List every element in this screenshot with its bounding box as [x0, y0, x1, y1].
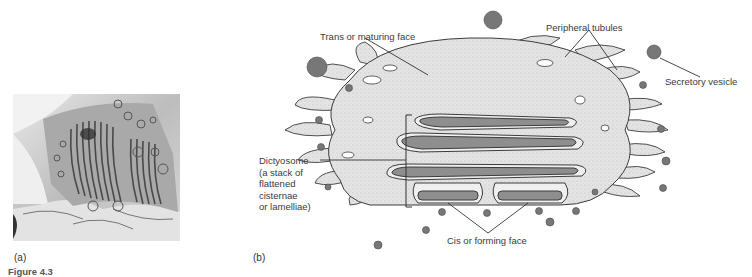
trans-face-label: Trans or maturing face — [320, 31, 415, 43]
dictyosome-label-line-1: Dictyosome — [259, 155, 311, 167]
dictyosome-label: Dictyosome (a stack of flattened cistern… — [259, 155, 311, 213]
cis-face-label: Cis or forming face — [447, 235, 527, 247]
panel-b-label: (b) — [253, 252, 265, 263]
secretory-vesicle-label: Secretory vesicle — [665, 76, 737, 88]
dictyosome-label-line-2: (a stack of — [259, 167, 311, 179]
dictyosome-label-line-4: cisternae — [259, 190, 311, 202]
peripheral-tubules-label: Peripheral tubules — [546, 22, 623, 34]
dictyosome-label-line-3: flattened — [259, 178, 311, 190]
dictyosome-label-line-5: or lamelliae) — [259, 201, 311, 213]
figure-caption: Figure 4.3 — [8, 266, 53, 277]
